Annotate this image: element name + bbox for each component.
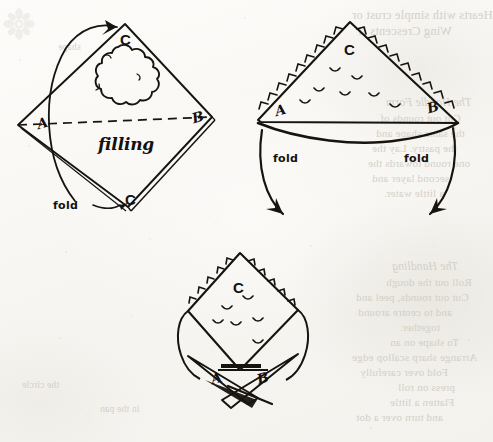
scanned-page: Hearts with simple crust or Wing Crescen… [0,0,493,442]
step2-fold-arrow-left-head [266,198,283,214]
diagram-step-3 [178,253,308,408]
step3-wing-right [286,310,308,380]
diagram-layer: C C A B filling fold C A B fold fold C A… [0,0,493,442]
step2-fold-arrow-right-curve [430,128,455,214]
step2-triangle-outline [258,22,458,123]
step3-body-outline [188,253,298,370]
step3-surface-marks [213,296,263,343]
diagram-step-2 [258,22,458,214]
step2-fold-arrow-left-curve [260,130,283,214]
step2-open-bottom-curve [258,123,458,143]
step1-filling-blob [96,45,159,105]
step1-edge-caps [128,117,215,211]
step2-surface-marks [300,68,400,107]
step3-crimp-upper-right [248,259,295,305]
step1-centre-dashed-line [18,117,212,125]
step1-fold-leader [93,205,120,208]
step1-square-outline [18,24,212,207]
step3-seal-band [221,364,261,368]
step1-fold-arrow-curve [49,25,117,201]
step1-edge-double-right [131,120,215,211]
diagram-step-1 [18,20,215,211]
step3-crimp-upper-left [189,258,233,303]
diagram-illustrations [0,0,493,442]
